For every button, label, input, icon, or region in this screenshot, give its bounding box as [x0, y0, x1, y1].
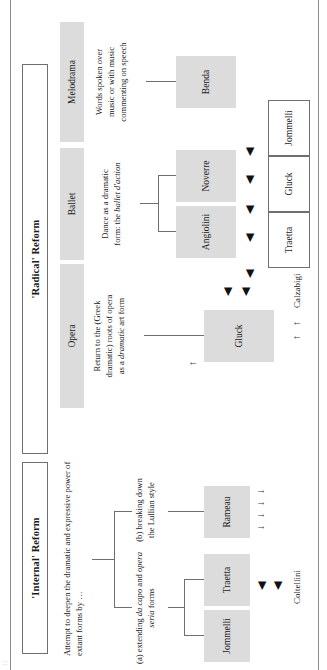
- diagram-stage: 11 'Internal' Reform 'Radical' Reform At…: [0, 0, 327, 670]
- arrow-collab-to-angiolini-2: ◀: [244, 206, 255, 214]
- genre-description-opera-line-3a: as a: [116, 359, 126, 374]
- collab-box-gluck: Gluck: [268, 156, 310, 212]
- running-head: 11: [2, 660, 8, 666]
- internal-branch-a-label: (a) extending da capo and opera seria fo…: [134, 552, 158, 664]
- genre-description-opera-line-3b: art form: [116, 298, 126, 328]
- internal-branch-b-line-2: the Lullian style: [146, 460, 158, 560]
- connector-a-stem: [168, 607, 184, 608]
- collab-box-traetta: Traetta: [268, 212, 310, 268]
- connector-melodrama-to-benda: [146, 81, 176, 82]
- arrow-collab-to-noverre-2: ◀: [244, 148, 255, 156]
- genre-description-melodrama-line-2: music or with music: [106, 18, 118, 146]
- connector-internal-to-b: [114, 511, 132, 512]
- connector-internal-split: [114, 512, 115, 608]
- page-rule-top: [10, 0, 11, 670]
- internal-branch-b-line-1: (b) breaking down: [134, 460, 146, 560]
- name-plate-rameau: Rameau: [204, 486, 250, 538]
- librettist-calzabigi: Calzabigi: [292, 274, 302, 309]
- collab-box-traetta-label: Traetta: [284, 213, 294, 267]
- genre-description-ballet: Dance as a dramatic form: the ballet d'a…: [100, 142, 124, 266]
- name-plate-noverre: Noverre: [176, 150, 236, 202]
- connector-a-to-jommelli: [184, 635, 204, 636]
- name-plate-rameau-label: Rameau: [222, 486, 232, 538]
- internal-reform-summary: Attempt to deepen the dramatic and expre…: [62, 460, 86, 656]
- genre-description-ballet-line-2: form: the ballet d'action: [112, 142, 124, 266]
- arrow-thin-rameau-3: ↓: [256, 501, 266, 506]
- genre-description-opera-line-3: as a dramatic art form: [116, 260, 128, 412]
- arrow-thin-opera-up: ↑: [188, 361, 198, 366]
- internal-branch-a-text-1: (a) extending: [134, 616, 144, 664]
- connector-a-to-traetta: [184, 579, 204, 580]
- genre-description-ballet-line-2-italic: ballet d'action: [112, 162, 122, 211]
- name-plate-noverre-label: Noverre: [201, 150, 211, 202]
- connector-ballet-fork: [158, 176, 159, 232]
- category-label-internal-reform: 'Internal' Reform: [30, 463, 41, 653]
- internal-branch-a-text-2: and: [134, 572, 144, 589]
- name-plate-angiolini: Angiolini: [176, 206, 236, 258]
- connector-internal-to-a: [114, 607, 132, 608]
- arrow-thin-rameau-2: ↓: [256, 513, 266, 518]
- genre-description-opera-line-2: dramatic) roots of opera: [104, 260, 116, 412]
- genre-plate-melodrama-label: Melodrama: [67, 22, 77, 142]
- genre-plate-melodrama: Melodrama: [60, 22, 84, 142]
- category-box-internal-reform: 'Internal' Reform: [22, 462, 48, 654]
- diagram-canvas: 11 'Internal' Reform 'Radical' Reform At…: [0, 0, 327, 670]
- genre-plate-opera-label: Opera: [67, 264, 77, 408]
- arrow-collab-to-noverre-1: ◀: [244, 176, 255, 184]
- name-plate-gluck-opera-label: Gluck: [234, 310, 244, 362]
- genre-description-opera-line-3-italic: dramatic: [116, 328, 126, 359]
- genre-description-melodrama: Words spoken over music or with music co…: [94, 18, 130, 146]
- internal-branch-a-italic-1: da capo: [134, 589, 144, 616]
- page-rule-bottom: [318, 0, 319, 670]
- librettist-coltellini: Coltellini: [292, 570, 302, 604]
- arrow-calzabigi-to-gluck-2: ◀: [240, 288, 251, 296]
- connector-ballet-to-noverre: [158, 175, 176, 176]
- arrow-collab-to-opera-1: ◀: [244, 270, 255, 278]
- name-plate-traetta-internal: Traetta: [204, 554, 250, 606]
- name-plate-benda: Benda: [176, 56, 236, 108]
- connector-b-to-rameau: [168, 511, 204, 512]
- genre-plate-ballet: Ballet: [60, 148, 84, 260]
- genre-description-melodrama-line-1: Words spoken over: [94, 18, 106, 146]
- arrow-collab-to-angiolini-1: ◀: [244, 234, 255, 242]
- arrow-coltellini-to-traetta-1: ◀: [256, 582, 267, 590]
- genre-description-ballet-line-2a: form: the: [112, 212, 122, 246]
- connector-ballet-stem: [140, 203, 158, 204]
- arrow-thin-calzabigi-1: ↑: [292, 335, 302, 340]
- connector-a-fork: [184, 580, 185, 636]
- genre-plate-opera: Opera: [60, 264, 84, 408]
- genre-description-opera-line-1: Return to the (Greek: [92, 260, 104, 412]
- category-label-radical-reform: 'Radical' Reform: [30, 65, 41, 453]
- name-plate-gluck-opera: Gluck: [204, 310, 274, 362]
- internal-branch-a-text-3: forms: [146, 588, 156, 610]
- collab-box-jommelli: Jommelli: [268, 100, 310, 156]
- name-plate-benda-label: Benda: [201, 56, 211, 108]
- arrow-thin-calzabigi-2: ↑: [292, 321, 302, 326]
- connector-opera-to-gluck: [144, 335, 204, 336]
- name-plate-angiolini-label: Angiolini: [201, 206, 211, 258]
- arrow-thin-rameau-1: ↓: [256, 525, 266, 530]
- name-plate-traetta-internal-label: Traetta: [222, 554, 232, 606]
- category-box-radical-reform: 'Radical' Reform: [22, 64, 48, 454]
- connector-ballet-to-angiolini: [158, 231, 176, 232]
- genre-plate-ballet-label: Ballet: [67, 148, 77, 260]
- connector-internal-trunk: [92, 559, 114, 560]
- collab-box-gluck-label: Gluck: [284, 157, 294, 211]
- name-plate-jommelli-internal: Jommelli: [204, 610, 250, 662]
- genre-description-melodrama-line-3: commenting on speech: [118, 18, 130, 146]
- arrow-calzabigi-to-gluck-1: ◀: [222, 288, 233, 296]
- collab-box-jommelli-label: Jommelli: [284, 101, 294, 155]
- name-plate-jommelli-internal-label: Jommelli: [222, 610, 232, 662]
- arrow-thin-rameau-4: ↓: [256, 489, 266, 494]
- genre-description-opera: Return to the (Greek dramatic) roots of …: [92, 260, 128, 412]
- internal-branch-b-label: (b) breaking down the Lullian style: [134, 460, 158, 560]
- arrow-coltellini-to-traetta-2: ◀: [272, 582, 283, 590]
- genre-description-ballet-line-1: Dance as a dramatic: [100, 142, 112, 266]
